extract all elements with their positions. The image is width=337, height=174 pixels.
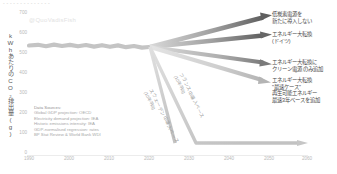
emissions-intensity-chart: - - - - - - - - - - - - - - kWhあたりのCO₂排出… <box>0 0 337 174</box>
x-tick: 2040 <box>224 156 234 162</box>
x-tick: 2030 <box>184 156 194 162</box>
y-tick: 200 <box>11 110 27 115</box>
y-tick: 0 <box>11 150 27 155</box>
y-axis-ticks: 700 600 500 400 300 200 100 0 <box>5 12 27 155</box>
y-tick: 400 <box>11 70 27 75</box>
arrow-head-france <box>297 140 308 146</box>
y-tick: 300 <box>11 90 27 95</box>
data-source-item: Historic emissions intensity: IEA <box>34 121 101 126</box>
data-sources-block: Data Sources: Global GDP projection: OEC… <box>34 105 101 137</box>
arrow-head-no-new-lowcarbon <box>260 13 272 21</box>
scenario-arrow-no-new-lowcarbon <box>150 18 263 48</box>
scenario-label-line: 再生可能エネルギー <box>272 90 320 97</box>
scenario-label-line: (ドイツ) <box>272 38 312 45</box>
scenario-arrow-clean-only <box>150 47 263 63</box>
scenario-label-line: 最速3年ベースを追加 <box>272 97 320 104</box>
watermark-handle: @QuoVadisFish <box>29 17 76 23</box>
historic-intensity-line <box>29 45 149 48</box>
pace-label-sweden: スウェーデンの導入ペース (10年平均) <box>143 88 179 147</box>
x-tick: 1990 <box>24 156 34 162</box>
pace-label-france: フランスの導入ペース (10年平均) <box>173 72 205 122</box>
x-tick: 2020 <box>144 156 154 162</box>
y-tick: 700 <box>11 10 27 15</box>
arrow-head-energiewende-germany <box>260 31 272 38</box>
arrow-head-fastest-renewables <box>258 77 271 84</box>
scenario-label-line: エネルギー大転換 <box>272 77 320 84</box>
scenario-label-fastest-renewables: エネルギー大転換 "最速ケース" 再生可能エネルギー 最速3年ベースを追加 <box>272 77 320 103</box>
y-tick: 100 <box>11 130 27 135</box>
x-tick: 2010 <box>104 156 114 162</box>
x-tick: 2050 <box>264 156 274 162</box>
scenario-arrow-energiewende-germany <box>150 36 263 48</box>
scenario-label-no-new-lowcarbon: 低炭素電源を 新たに導入しない <box>272 11 312 24</box>
x-tick: 2000 <box>64 156 74 162</box>
scenario-arrow-fastest-renewables <box>150 47 262 80</box>
scenario-label-energiewende-germany: エネルギー大転換 (ドイツ) <box>272 31 312 44</box>
scenario-label-line: 低炭素電源を <box>272 11 312 18</box>
scenario-label-line: クリーン電源 のみ追加 <box>272 66 324 73</box>
scenario-label-clean-only: エネルギー大転換に クリーン電源 のみ追加 <box>272 59 324 72</box>
data-source-item: BP Stat Review & World Bank WDI <box>34 132 101 137</box>
scenario-label-line: エネルギー大転換 <box>272 31 312 38</box>
x-tick: 2060 <box>302 156 312 162</box>
cropped-title-strip: - - - - - - - - - - - - - - <box>0 0 337 7</box>
arrow-head-clean-only <box>259 59 272 66</box>
x-axis-ticks: 1990 2000 2010 2020 2030 2040 2050 2060 <box>27 156 308 166</box>
y-tick: 500 <box>11 50 27 55</box>
y-tick: 600 <box>11 30 27 35</box>
scenario-label-line: 新たに導入しない <box>272 18 312 25</box>
scenario-label-line: エネルギー大転換に <box>272 59 324 66</box>
